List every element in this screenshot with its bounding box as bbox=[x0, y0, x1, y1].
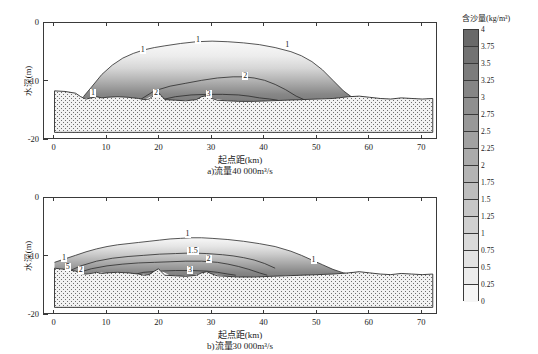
x-tick-mark bbox=[158, 310, 159, 314]
x-tick-mark bbox=[263, 22, 264, 26]
x-tick-label: 40 bbox=[259, 318, 268, 327]
x-tick-label: 40 bbox=[259, 143, 268, 152]
panel-b-plot: 1111.522530-10-20010203040506070 bbox=[43, 197, 437, 314]
colorbar-swatch bbox=[464, 30, 478, 47]
y-tick-label: -20 bbox=[28, 135, 39, 144]
sediment-plume-fill-a bbox=[83, 41, 356, 101]
colorbar-tick-label: 3 bbox=[481, 94, 485, 102]
colorbar-swatch bbox=[464, 251, 478, 268]
colorbar-tick-label: 0.25 bbox=[481, 281, 494, 289]
contour-label: 2 bbox=[153, 89, 159, 97]
colorbar-tick-label: 3.75 bbox=[481, 43, 494, 51]
colorbar-swatch bbox=[464, 268, 478, 285]
colorbar-tick-label: 2.25 bbox=[481, 145, 494, 153]
contour-label: 1 bbox=[284, 41, 290, 49]
x-tick-label: 50 bbox=[312, 318, 321, 327]
colorbar-swatch bbox=[464, 285, 478, 302]
x-tick-mark bbox=[421, 197, 422, 201]
panel-b-caption: b)流量30 000m³/s bbox=[207, 339, 273, 352]
panel-b-frame bbox=[43, 197, 437, 314]
colorbar-swatch bbox=[464, 132, 478, 149]
x-tick-mark bbox=[368, 197, 369, 201]
colorbar-swatch bbox=[464, 183, 478, 200]
x-tick-mark bbox=[211, 135, 212, 139]
colorbar-tick-label: 3.25 bbox=[481, 77, 494, 85]
colorbar-tick-label: 0.5 bbox=[481, 264, 490, 272]
contour-label: 2 bbox=[206, 255, 212, 263]
y-axis-label: 水深(m) bbox=[21, 234, 33, 278]
panel-a-frame bbox=[43, 22, 437, 139]
x-tick-mark bbox=[316, 310, 317, 314]
colorbar-tick-label: 0.75 bbox=[481, 247, 494, 255]
colorbar-swatch bbox=[464, 81, 478, 98]
x-tick-mark bbox=[158, 197, 159, 201]
x-tick-mark bbox=[211, 310, 212, 314]
contour-label: 1 bbox=[311, 256, 317, 264]
colorbar: 含沙量(kg/m³) 43.753.53.2532.752.52.2521.75… bbox=[462, 12, 532, 312]
colorbar-tick-label: 1.5 bbox=[481, 196, 490, 204]
x-tick-label: 10 bbox=[102, 318, 111, 327]
x-tick-mark bbox=[316, 135, 317, 139]
y-tick-label: -20 bbox=[28, 310, 39, 319]
x-tick-mark bbox=[368, 310, 369, 314]
x-tick-mark bbox=[421, 22, 422, 26]
y-tick-label: 0 bbox=[35, 18, 39, 27]
x-tick-mark bbox=[53, 135, 54, 139]
x-tick-label: 50 bbox=[312, 143, 321, 152]
colorbar-tick-label: 4 bbox=[481, 26, 485, 34]
sediment-concentration-figure: 11112230-10-20010203040506070 1111.52253… bbox=[0, 0, 538, 354]
colorbar-tick-label: 1 bbox=[481, 230, 485, 238]
contour-label: 5 bbox=[65, 263, 71, 271]
contour-label: 3 bbox=[206, 90, 212, 98]
contour-label: 3 bbox=[187, 266, 193, 274]
colorbar-swatch bbox=[464, 200, 478, 217]
x-tick-mark bbox=[263, 310, 264, 314]
colorbar-swatch bbox=[464, 47, 478, 64]
y-tick-mark bbox=[43, 80, 48, 81]
contour-label: 1 bbox=[195, 36, 201, 44]
contour-label: 2 bbox=[242, 72, 248, 80]
panel-a-contour-canvas bbox=[44, 23, 437, 139]
x-tick-mark bbox=[158, 22, 159, 26]
y-tick-mark bbox=[43, 22, 48, 23]
x-tick-mark bbox=[316, 22, 317, 26]
x-tick-mark bbox=[368, 135, 369, 139]
y-axis-label: 水深(m) bbox=[21, 59, 33, 103]
panel-a-plot: 11112230-10-20010203040506070 bbox=[43, 22, 437, 139]
colorbar-tick-label: 2 bbox=[481, 162, 485, 170]
x-tick-mark bbox=[158, 135, 159, 139]
contour-label: 1 bbox=[140, 46, 146, 54]
x-tick-label: 60 bbox=[364, 318, 373, 327]
x-tick-mark bbox=[421, 135, 422, 139]
y-tick-mark bbox=[43, 314, 48, 315]
x-tick-mark bbox=[106, 310, 107, 314]
contour-label: 1 bbox=[90, 89, 96, 97]
y-tick-mark bbox=[43, 255, 48, 256]
x-tick-mark bbox=[106, 22, 107, 26]
y-tick-label: 0 bbox=[35, 193, 39, 202]
x-tick-mark bbox=[106, 135, 107, 139]
colorbar-swatch bbox=[464, 234, 478, 251]
x-tick-mark bbox=[53, 310, 54, 314]
colorbar-title: 含沙量(kg/m³) bbox=[462, 12, 510, 23]
x-tick-label: 0 bbox=[51, 318, 55, 327]
x-tick-mark bbox=[263, 197, 264, 201]
x-tick-mark bbox=[211, 22, 212, 26]
x-tick-label: 60 bbox=[364, 143, 373, 152]
contour-label: 2 bbox=[78, 266, 84, 274]
colorbar-gradient: 43.753.53.2532.752.52.2521.751.51.2510.7… bbox=[463, 29, 479, 301]
x-tick-mark bbox=[316, 197, 317, 201]
x-tick-label: 10 bbox=[102, 143, 111, 152]
contour-label: 1 bbox=[185, 230, 191, 238]
x-tick-label: 30 bbox=[207, 143, 216, 152]
x-tick-label: 70 bbox=[417, 318, 426, 327]
x-tick-mark bbox=[53, 22, 54, 26]
colorbar-tick-label: 3.5 bbox=[481, 60, 490, 68]
colorbar-tick-label: 1.75 bbox=[481, 179, 494, 187]
x-tick-mark bbox=[368, 22, 369, 26]
colorbar-tick-label: 2.75 bbox=[481, 111, 494, 119]
x-tick-mark bbox=[53, 197, 54, 201]
x-tick-label: 0 bbox=[51, 143, 55, 152]
x-tick-mark bbox=[211, 197, 212, 201]
x-tick-mark bbox=[421, 310, 422, 314]
